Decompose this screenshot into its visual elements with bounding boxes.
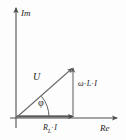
- imaginary-axis-label: Im: [21, 9, 31, 18]
- voltage-vector-label: U: [33, 72, 40, 82]
- inductive-drop-label: ω·L·I: [78, 80, 97, 88]
- resistive-drop-label: RL·I: [43, 124, 57, 134]
- diagram-canvas: [0, 0, 126, 140]
- real-axis-label: Re: [100, 124, 110, 133]
- phase-angle-label: φ: [38, 98, 44, 108]
- resistive-drop-current: I: [54, 123, 57, 132]
- inductive-drop-current: I: [94, 79, 97, 88]
- voltage-vector: [17, 69, 73, 118]
- phasor-diagram-figure: Im Re U φ ω·L·I RL·I: [0, 0, 126, 140]
